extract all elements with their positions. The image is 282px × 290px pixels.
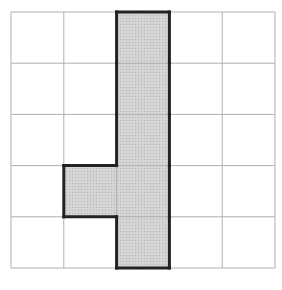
- shaded-cell: [117, 114, 170, 166]
- grid-diagram: [0, 0, 282, 290]
- shaded-cell: [117, 217, 170, 269]
- shaded-cell: [117, 63, 170, 115]
- shaded-cell: [117, 166, 170, 218]
- shaded-cell: [64, 166, 117, 218]
- shaded-cell: [117, 12, 170, 64]
